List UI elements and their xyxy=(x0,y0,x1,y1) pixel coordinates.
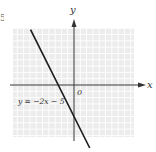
equation-label: y = −2x − 5 xyxy=(17,97,65,106)
y-axis-label: y xyxy=(69,4,76,15)
x-axis-arrow-icon xyxy=(138,83,146,88)
x-axis-label: x xyxy=(147,79,153,90)
y-axis-arrow-icon xyxy=(72,19,77,27)
graph: x y 0 y = −2x − 5 xyxy=(0,0,156,152)
origin-label: 0 xyxy=(77,88,82,97)
